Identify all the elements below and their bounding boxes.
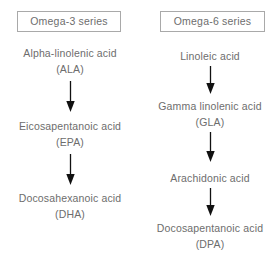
node-abbreviation: (EPA) <box>0 134 140 150</box>
node-eicosapentanoic-acid: Eicosapentanoic acid (EPA) <box>0 118 140 150</box>
down-arrow-icon <box>64 81 77 112</box>
node-abbreviation: (DHA) <box>0 206 140 222</box>
node-label: Docosapentanoic acid <box>140 220 280 236</box>
down-arrow-icon <box>204 188 217 216</box>
node-abbreviation: (GLA) <box>140 114 280 130</box>
omega-3-header-label: Omega-3 series <box>30 16 108 27</box>
node-docosahexanoic-acid: Docosahexanoic acid (DHA) <box>0 190 140 222</box>
node-label: Docosahexanoic acid <box>0 190 140 206</box>
node-label: Arachidonic acid <box>140 170 280 186</box>
node-abbreviation: (ALA) <box>0 61 140 77</box>
node-alpha-linolenic-acid: Alpha-linolenic acid (ALA) <box>0 45 140 77</box>
node-label: Alpha-linolenic acid <box>0 45 140 61</box>
node-label: Eicosapentanoic acid <box>0 118 140 134</box>
omega-3-column: Omega-3 series Alpha-linolenic acid (ALA… <box>0 0 140 264</box>
down-arrow-icon <box>204 66 217 94</box>
node-gamma-linolenic-acid: Gamma linolenic acid (GLA) <box>140 98 280 130</box>
down-arrow-icon <box>204 132 217 162</box>
omega-6-header-label: Omega-6 series <box>174 16 252 27</box>
down-arrow-icon <box>64 154 77 185</box>
omega-6-column: Omega-6 series Linoleic acid Gamma linol… <box>140 0 280 264</box>
node-label: Linoleic acid <box>140 48 280 64</box>
node-docosapentanoic-acid: Docosapentanoic acid (DPA) <box>140 220 280 252</box>
node-label: Gamma linolenic acid <box>140 98 280 114</box>
node-arachidonic-acid: Arachidonic acid <box>140 170 280 186</box>
node-linoleic-acid: Linoleic acid <box>140 48 280 64</box>
omega-3-header-box: Omega-3 series <box>17 11 121 32</box>
omega-6-header-box: Omega-6 series <box>160 11 265 32</box>
node-abbreviation: (DPA) <box>140 236 280 252</box>
omega-fatty-acid-pathway-diagram: Omega-3 series Alpha-linolenic acid (ALA… <box>0 0 280 264</box>
